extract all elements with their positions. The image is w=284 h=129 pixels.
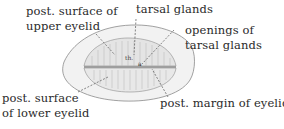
label-openings-tarsal-glands: openings of tarsal glands	[185, 23, 262, 53]
label-tarsal-glands: tarsal glands	[136, 2, 213, 17]
label-post-surface-upper-eyelid: post. surface of upper eyelid	[26, 4, 118, 34]
mark-th: th.	[125, 54, 133, 61]
label-post-margin-eyelid: post. margin of eyelid	[160, 96, 284, 111]
label-post-surface-lower-eyelid: post. surface of lower eyelid	[2, 91, 90, 121]
mark-a: a	[138, 60, 142, 67]
